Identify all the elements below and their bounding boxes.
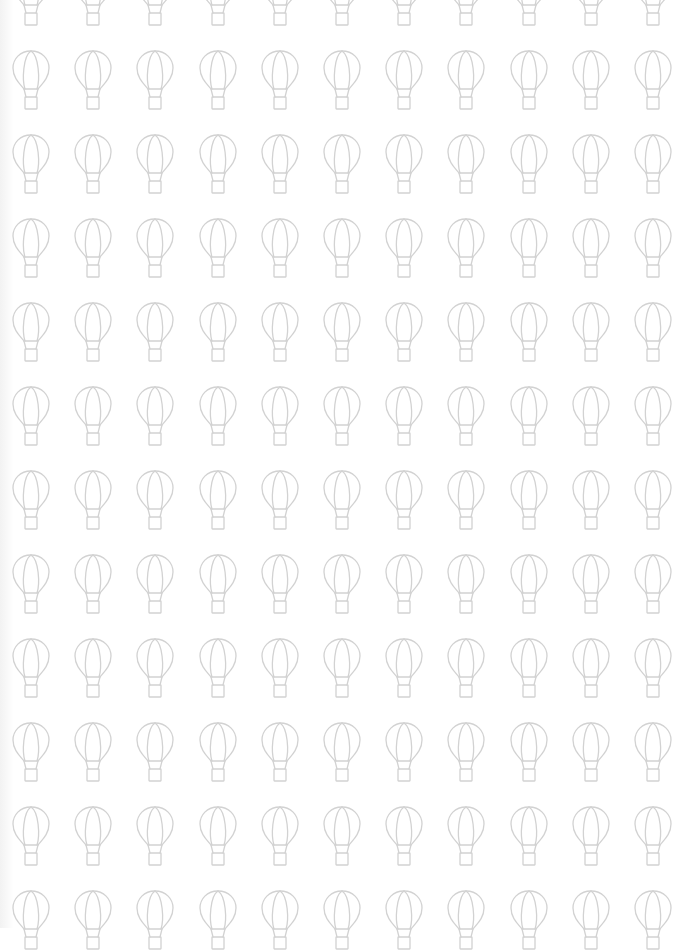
hot-air-balloon-icon — [446, 0, 486, 28]
hot-air-balloon-icon — [73, 218, 113, 280]
hot-air-balloon-icon — [198, 890, 238, 952]
hot-air-balloon-icon — [11, 0, 51, 28]
hot-air-balloon-icon — [322, 218, 362, 280]
hot-air-balloon-icon — [446, 386, 486, 448]
hot-air-balloon-icon — [260, 50, 300, 112]
hot-air-balloon-icon — [322, 134, 362, 196]
hot-air-balloon-icon — [198, 806, 238, 868]
hot-air-balloon-icon — [135, 722, 175, 784]
hot-air-balloon-icon — [633, 554, 673, 616]
hot-air-balloon-icon — [260, 0, 300, 28]
hot-air-balloon-icon — [322, 50, 362, 112]
hot-air-balloon-icon — [509, 890, 549, 952]
hot-air-balloon-icon — [571, 890, 611, 952]
hot-air-balloon-icon — [198, 218, 238, 280]
hot-air-balloon-icon — [384, 890, 424, 952]
hot-air-balloon-icon — [509, 554, 549, 616]
hot-air-balloon-icon — [260, 218, 300, 280]
hot-air-balloon-icon — [260, 302, 300, 364]
hot-air-balloon-icon — [571, 806, 611, 868]
hot-air-balloon-icon — [322, 0, 362, 28]
hot-air-balloon-icon — [446, 50, 486, 112]
hot-air-balloon-icon — [135, 386, 175, 448]
hot-air-balloon-icon — [446, 638, 486, 700]
hot-air-balloon-icon — [446, 806, 486, 868]
hot-air-balloon-icon — [446, 554, 486, 616]
hot-air-balloon-icon — [384, 0, 424, 28]
hot-air-balloon-icon — [571, 386, 611, 448]
hot-air-balloon-icon — [384, 806, 424, 868]
hot-air-balloon-icon — [73, 470, 113, 532]
hot-air-balloon-icon — [571, 0, 611, 28]
hot-air-balloon-icon — [384, 302, 424, 364]
hot-air-balloon-icon — [322, 722, 362, 784]
hot-air-balloon-icon — [322, 638, 362, 700]
hot-air-balloon-icon — [198, 722, 238, 784]
hot-air-balloon-icon — [135, 554, 175, 616]
hot-air-balloon-icon — [260, 806, 300, 868]
hot-air-balloon-icon — [633, 50, 673, 112]
hot-air-balloon-icon — [509, 470, 549, 532]
hot-air-balloon-icon — [198, 386, 238, 448]
hot-air-balloon-icon — [11, 722, 51, 784]
hot-air-balloon-icon — [509, 386, 549, 448]
hot-air-balloon-icon — [11, 386, 51, 448]
hot-air-balloon-icon — [633, 134, 673, 196]
hot-air-balloon-icon — [446, 134, 486, 196]
hot-air-balloon-icon — [135, 890, 175, 952]
hot-air-balloon-icon — [322, 386, 362, 448]
hot-air-balloon-icon — [11, 302, 51, 364]
hot-air-balloon-icon — [198, 554, 238, 616]
hot-air-balloon-icon — [73, 890, 113, 952]
hot-air-balloon-icon — [384, 554, 424, 616]
hot-air-balloon-icon — [384, 722, 424, 784]
hot-air-balloon-icon — [322, 554, 362, 616]
hot-air-balloon-icon — [446, 890, 486, 952]
hot-air-balloon-icon — [260, 890, 300, 952]
hot-air-balloon-icon — [633, 722, 673, 784]
hot-air-balloon-icon — [135, 470, 175, 532]
hot-air-balloon-icon — [73, 302, 113, 364]
hot-air-balloon-icon — [11, 134, 51, 196]
hot-air-balloon-icon — [384, 386, 424, 448]
hot-air-balloon-icon — [11, 554, 51, 616]
hot-air-balloon-icon — [571, 638, 611, 700]
hot-air-balloon-icon — [135, 0, 175, 28]
hot-air-balloon-icon — [509, 218, 549, 280]
hot-air-balloon-icon — [571, 722, 611, 784]
hot-air-balloon-icon — [446, 218, 486, 280]
hot-air-balloon-icon — [571, 470, 611, 532]
hot-air-balloon-icon — [11, 218, 51, 280]
hot-air-balloon-icon — [73, 638, 113, 700]
hot-air-balloon-icon — [633, 806, 673, 868]
hot-air-balloon-icon — [509, 134, 549, 196]
hot-air-balloon-icon — [384, 134, 424, 196]
hot-air-balloon-icon — [260, 134, 300, 196]
hot-air-balloon-icon — [509, 638, 549, 700]
hot-air-balloon-icon — [198, 0, 238, 28]
hot-air-balloon-icon — [633, 470, 673, 532]
hot-air-balloon-icon — [73, 806, 113, 868]
hot-air-balloon-icon — [198, 302, 238, 364]
hot-air-balloon-icon — [384, 50, 424, 112]
hot-air-balloon-icon — [260, 554, 300, 616]
hot-air-balloon-icon — [135, 638, 175, 700]
hot-air-balloon-icon — [633, 302, 673, 364]
hot-air-balloon-icon — [260, 470, 300, 532]
hot-air-balloon-icon — [509, 302, 549, 364]
hot-air-balloon-icon — [73, 722, 113, 784]
hot-air-balloon-icon — [322, 470, 362, 532]
hot-air-balloon-icon — [633, 890, 673, 952]
hot-air-balloon-icon — [198, 470, 238, 532]
hot-air-balloon-icon — [384, 638, 424, 700]
hot-air-balloon-icon — [509, 722, 549, 784]
hot-air-balloon-icon — [384, 470, 424, 532]
hot-air-balloon-icon — [73, 50, 113, 112]
hot-air-balloon-icon — [73, 0, 113, 28]
hot-air-balloon-icon — [633, 218, 673, 280]
hot-air-balloon-icon — [322, 890, 362, 952]
hot-air-balloon-icon — [571, 554, 611, 616]
hot-air-balloon-icon — [633, 638, 673, 700]
hot-air-balloon-icon — [11, 50, 51, 112]
hot-air-balloon-icon — [73, 386, 113, 448]
